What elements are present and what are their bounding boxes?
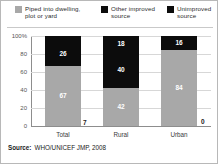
- legend-item-other-improved: Other improved source: [101, 5, 163, 20]
- bar-value-label: 26: [59, 51, 66, 58]
- bar-segment-other-improved: 26: [45, 42, 81, 65]
- x-axis-tick-urban: Urban: [149, 131, 209, 138]
- y-axis-tick: 20: [1, 105, 27, 111]
- x-axis-line: [31, 126, 211, 127]
- y-axis-tick: 100%: [1, 33, 27, 39]
- bar-value-label-outside: 0: [201, 119, 205, 126]
- source-text: WHO/UNICEF JMP, 2008: [34, 144, 106, 151]
- square-swatch-icon: [101, 6, 108, 13]
- bar-value-label: 67: [59, 93, 66, 100]
- bar-segment-other-improved: 40: [103, 52, 139, 88]
- bar-value-label: 42: [117, 104, 124, 111]
- bar-segment-piped: 42: [103, 88, 139, 126]
- y-axis-tick: 0: [1, 123, 27, 129]
- source-label: Source:: [8, 144, 31, 151]
- bar-value-label-outside: 7: [83, 120, 87, 127]
- y-axis-tick: 60: [1, 69, 27, 75]
- plot-area: 67 26 7 42 40 18 84 16: [31, 36, 211, 126]
- y-axis-tick-labels: 100% 80 60 40 20 0: [1, 36, 29, 127]
- legend-divider: [7, 27, 213, 28]
- bar-segment-other-improved: 16: [161, 36, 197, 50]
- legend-item-label: Unimproved source: [177, 5, 211, 20]
- x-axis-tick-total: Total: [33, 131, 93, 138]
- legend-item-label: Other improved source: [111, 5, 155, 20]
- legend-item-label: Piped into dwelling, plot or yard: [25, 5, 80, 20]
- chart-legend: Piped into dwelling, plot or yard Other …: [1, 1, 218, 27]
- y-axis-tick: 80: [1, 51, 27, 57]
- bar-value-label: 40: [117, 67, 124, 74]
- legend-item-piped: Piped into dwelling, plot or yard: [15, 5, 93, 20]
- bar-segment-unimproved: 18: [103, 36, 139, 52]
- bar-segment-piped: 67: [45, 66, 81, 126]
- legend-item-unimproved: Unimproved source: [167, 5, 217, 20]
- bar-segment-unimproved: [45, 36, 81, 42]
- bar-value-label: 16: [175, 40, 182, 47]
- square-swatch-icon: [167, 6, 174, 13]
- bar-value-label: 18: [117, 41, 124, 48]
- bar-value-label: 84: [175, 85, 182, 92]
- square-swatch-icon: [15, 6, 22, 13]
- x-axis-tick-rural: Rural: [91, 131, 151, 138]
- bar-segment-piped: 84: [161, 50, 197, 126]
- y-axis-tick: 40: [1, 87, 27, 93]
- source-note: Source:WHO/UNICEF JMP, 2008: [8, 144, 106, 151]
- water-source-chart-figure: Piped into dwelling, plot or yard Other …: [0, 0, 218, 164]
